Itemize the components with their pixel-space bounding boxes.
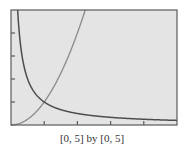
window-range-caption: [0, 5] by [0, 5] [0, 132, 184, 144]
plot-area [11, 10, 177, 125]
graph-window [0, 0, 184, 130]
